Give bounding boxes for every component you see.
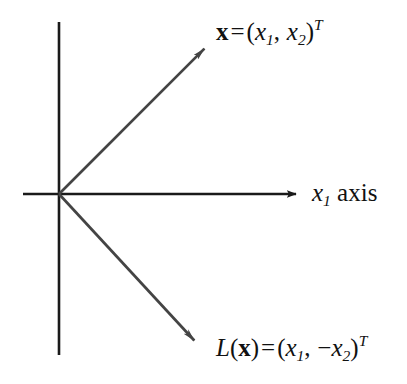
x1-axis-word: axis [337,179,377,206]
x-vector-transpose: T [314,16,323,33]
lx-vector-arrow [59,194,194,341]
x-vector-arrow [59,49,204,194]
x-vector-comma: , [274,18,281,45]
x-vector-equals: = [229,18,247,45]
x1-axis-label: x1 axis [312,180,377,205]
x-vector-label: x=(x1, x2)T [216,19,323,44]
x-vector-symbol: x [216,18,229,45]
lx-vector-close-paren: ) [350,334,358,361]
x-vector-second-var: x [287,18,298,45]
x-vector-open-paren: ( [247,18,255,45]
x-vector-second-sub: 2 [298,31,306,48]
lx-vector-close-arg: ) [251,334,259,361]
figure-canvas: x=(x1, x2)T L(x)=(x1, −x2)T x1 axis [0,0,407,384]
lx-vector-first-var: x [286,334,297,361]
lx-vector-symbol: x [238,334,251,361]
lx-vector-minus-sign: − [317,334,331,361]
lx-vector-function: L [216,334,230,361]
lx-vector-equals: = [259,334,277,361]
x-vector-close-paren: ) [306,18,314,45]
lx-vector-open-paren: ( [277,334,285,361]
x-vector-first-sub: 1 [266,31,274,48]
x-vector-first-var: x [255,18,266,45]
lx-vector-second-var: x [331,334,342,361]
x1-axis-sub: 1 [323,192,331,209]
lx-vector-comma: , [304,334,311,361]
x1-axis-var: x [312,179,323,206]
lx-vector-label: L(x)=(x1, −x2)T [216,335,367,360]
lx-vector-transpose: T [359,332,368,349]
lx-vector-open-arg: ( [230,334,238,361]
